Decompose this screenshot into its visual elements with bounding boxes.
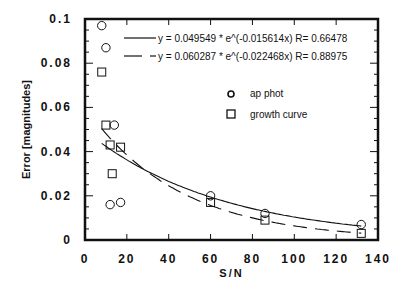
marker-circle (106, 200, 114, 208)
x-tick-label: 120 (323, 252, 349, 266)
marker-square (108, 170, 116, 178)
legend-circle-icon (228, 91, 234, 97)
marker-square (117, 143, 125, 151)
y-tick-label: 0.04 (41, 145, 72, 159)
x-tick-label: 40 (160, 252, 177, 266)
x-tick-label: 0 (81, 252, 90, 266)
marker-circle (102, 44, 110, 52)
x-tick-label: 20 (118, 252, 135, 266)
marker-circle (110, 121, 118, 129)
fit-curve-1 (102, 143, 362, 226)
legend-marker2: growth curve (250, 109, 308, 120)
legend-marker1: ap phot (250, 88, 284, 99)
legend-square-icon (227, 110, 235, 118)
fit-curve-2 (102, 129, 362, 233)
legend-fit1: y = 0.049549 * e^(-0.015614x) R= 0.66478 (158, 33, 348, 44)
y-tick-label: 0.06 (41, 100, 72, 114)
marker-circle (116, 198, 124, 206)
legend-fit2: y = 0.060287 * e^(-0.022468x) R= 0.88975 (158, 51, 348, 62)
y-axis-label: Error [magnitudes] (20, 80, 32, 179)
x-tick-label: 60 (202, 252, 219, 266)
x-tick-label: 80 (244, 252, 261, 266)
y-tick-label: 0.02 (41, 189, 72, 203)
marker-square (98, 68, 106, 76)
y-tick-label: 0.08 (41, 56, 72, 70)
x-tick-label: 100 (281, 252, 307, 266)
y-tick-label: 0.1 (49, 12, 72, 26)
marker-square (102, 121, 110, 129)
y-tick-label: 0 (63, 233, 72, 247)
chart: 02040608010012014000.020.040.060.080.1S/… (0, 0, 408, 296)
x-tick-label: 140 (365, 252, 391, 266)
marker-circle (98, 21, 106, 29)
marker-circle (357, 220, 365, 228)
x-axis-label: S/N (219, 267, 243, 279)
